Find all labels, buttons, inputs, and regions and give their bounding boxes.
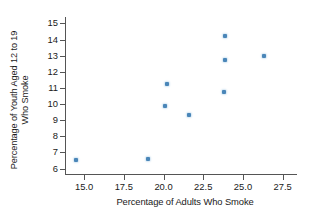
data-point: [163, 104, 167, 108]
x-axis-tick: [84, 175, 85, 180]
x-axis-tick-label: 27.5: [260, 182, 306, 191]
y-axis-tick-label: 10: [18, 99, 58, 108]
x-axis-line: [65, 174, 297, 175]
data-point: [146, 157, 150, 161]
x-axis-tick: [203, 175, 204, 180]
y-axis-tick-label: 6: [18, 164, 58, 173]
x-axis-tick: [164, 175, 165, 180]
x-axis-tick: [243, 175, 244, 180]
data-point: [223, 58, 227, 62]
y-axis-tick-label: 7: [18, 147, 58, 156]
x-axis-tick: [283, 175, 284, 180]
data-point: [262, 54, 266, 58]
y-axis-tick-label: 13: [18, 51, 58, 60]
data-point: [165, 82, 169, 86]
y-axis-tick-label: 14: [18, 35, 58, 44]
y-axis-tick-label: 12: [18, 67, 58, 76]
x-axis-tick: [124, 175, 125, 180]
y-axis-tick-label: 8: [18, 131, 58, 140]
x-axis-title: Percentage of Adults Who Smoke: [65, 196, 305, 207]
y-axis-tick-label: 15: [18, 18, 58, 27]
data-point: [222, 90, 226, 94]
data-point: [187, 113, 191, 117]
y-axis-tick-label: 9: [18, 115, 58, 124]
scatter-plot: Percentage of Youth Aged 12 to 19 Who Sm…: [0, 0, 314, 216]
y-axis-tick-label: 11: [18, 83, 58, 92]
plot-area: [65, 16, 305, 174]
